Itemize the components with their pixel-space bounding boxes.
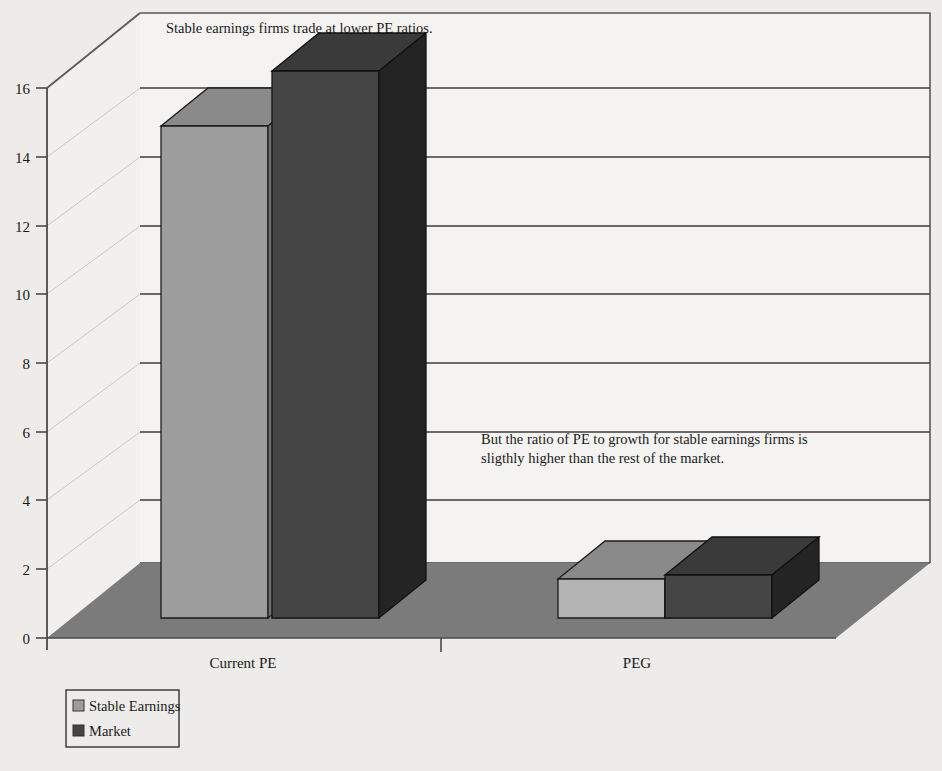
y-tick-label-2: 2: [23, 562, 31, 578]
plot-left-wall: [47, 13, 140, 638]
legend-swatch-icon: [73, 725, 84, 736]
legend-swatch-icon: [73, 700, 84, 711]
annotation-peg-note-line-2: sligthly higher than the rest of the mar…: [481, 450, 724, 466]
y-tick-label-8: 8: [23, 356, 31, 372]
y-tick-label-6: 6: [23, 425, 31, 441]
bar-front-face: [272, 71, 379, 618]
bar-currentpe-market[interactable]: [272, 33, 426, 618]
y-tick-label-0: 0: [23, 631, 31, 647]
bar-chart-3d: 16 14 12 10 8 6 4 2 0 Current PE PEG Sta…: [0, 0, 942, 771]
y-tick-label-14: 14: [15, 150, 31, 166]
legend-label-market: Market: [89, 723, 131, 739]
annotation-peg-note-line-1: But the ratio of PE to growth for stable…: [481, 431, 808, 447]
annotation-title-note: Stable earnings firms trade at lower PE …: [166, 20, 433, 36]
y-tick-label-12: 12: [15, 219, 30, 235]
legend: Stable Earnings Market: [66, 690, 181, 747]
y-tick-label-16: 16: [15, 81, 31, 97]
legend-item-stable-earnings[interactable]: Stable Earnings: [73, 698, 181, 714]
bar-front-face: [665, 575, 772, 618]
legend-label-stable-earnings: Stable Earnings: [89, 698, 181, 714]
bar-front-face: [558, 579, 665, 618]
x-category-label-peg: PEG: [623, 655, 652, 671]
x-category-label-current-pe: Current PE: [209, 655, 276, 671]
bar-side-face: [379, 33, 426, 618]
bar-front-face: [161, 126, 268, 618]
y-tick-label-10: 10: [15, 287, 30, 303]
y-tick-label-4: 4: [23, 493, 31, 509]
